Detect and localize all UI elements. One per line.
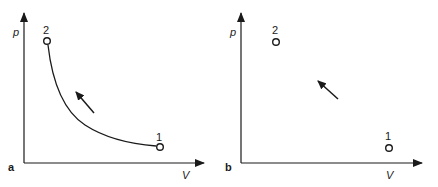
panel-a: p V a 2 1 (8, 13, 204, 181)
pv-diagram-figure: p V a 2 1 p V b 2 1 (0, 0, 438, 187)
process-direction-arrow (76, 92, 94, 113)
state-label-1: 1 (385, 130, 391, 142)
y-axis-label: p (12, 26, 19, 38)
state-label-2: 2 (43, 24, 49, 36)
state-point-1 (157, 144, 164, 151)
process-direction-arrow (318, 81, 338, 99)
x-axis-label: V (182, 169, 191, 181)
x-axis-label: V (386, 169, 395, 181)
y-axis-label: p (229, 26, 236, 38)
process-curve (48, 45, 156, 146)
state-point-2 (44, 38, 51, 45)
panel-b: p V b 2 1 (225, 13, 422, 181)
panel-label: b (225, 161, 232, 173)
panel-label: a (8, 161, 15, 173)
state-label-1: 1 (156, 131, 162, 143)
state-point-2 (273, 39, 280, 46)
state-label-2: 2 (272, 24, 278, 36)
state-point-1 (386, 145, 393, 152)
